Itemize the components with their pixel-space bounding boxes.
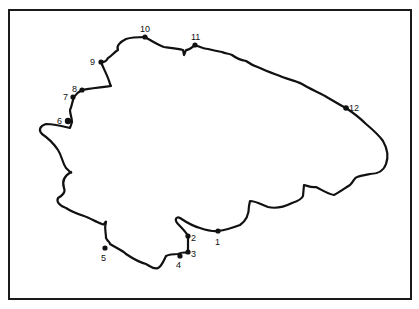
- site-label: 5: [101, 253, 106, 263]
- site-3: 3: [185, 249, 196, 259]
- site-1: 1: [215, 228, 221, 247]
- site-marker-icon: [215, 228, 220, 233]
- coastline: [40, 37, 388, 269]
- island-map: 1 2 3 4 5 6 7: [0, 0, 419, 309]
- site-label: 3: [191, 249, 196, 259]
- site-marker-icon: [185, 249, 190, 254]
- site-label: 1: [215, 237, 220, 247]
- site-marker-icon: [185, 233, 190, 238]
- site-marker-icon: [343, 105, 349, 111]
- site-label: 4: [176, 260, 181, 270]
- site-label: 12: [349, 103, 359, 113]
- site-marker-icon: [102, 245, 107, 250]
- sampling-sites: 1 2 3 4 5 6 7: [57, 24, 359, 270]
- site-label: 2: [191, 233, 196, 243]
- site-11: 11: [191, 32, 200, 48]
- map-frame: [9, 10, 411, 299]
- site-marker-icon: [70, 94, 75, 99]
- site-label: 8: [72, 84, 77, 94]
- site-label: 11: [191, 32, 200, 42]
- site-label: 6: [57, 116, 62, 126]
- site-marker-icon: [65, 118, 71, 124]
- map-canvas: 1 2 3 4 5 6 7: [0, 0, 419, 309]
- site-12: 12: [343, 103, 359, 113]
- site-marker-icon: [192, 42, 197, 47]
- site-marker-icon: [142, 34, 147, 39]
- site-4: 4: [176, 253, 183, 270]
- site-label: 9: [90, 57, 95, 67]
- site-marker-icon: [79, 87, 84, 92]
- site-marker-icon: [98, 59, 103, 64]
- site-6: 6: [57, 116, 71, 126]
- site-label: 10: [140, 24, 150, 34]
- site-5: 5: [101, 245, 108, 263]
- site-marker-icon: [177, 253, 182, 258]
- site-label: 7: [63, 92, 68, 102]
